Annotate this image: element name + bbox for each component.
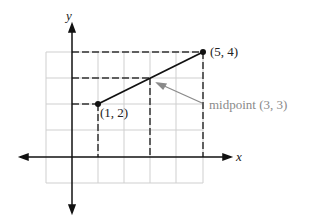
y-axis-label: y: [66, 9, 72, 22]
midpoint-arrow-icon: [157, 83, 202, 103]
point-a-label: (1, 2): [100, 106, 128, 119]
point-b-label: (5, 4): [210, 45, 238, 58]
x-axis-left-arrow-icon: [20, 154, 28, 160]
y-axis-up-arrow-icon: [69, 24, 75, 32]
x-axis-label: x: [236, 150, 242, 163]
x-axis-right-arrow-icon: [223, 154, 231, 160]
midpoint-label: midpoint (3, 3): [209, 98, 287, 111]
point-b: [200, 49, 206, 55]
y-axis-down-arrow-icon: [69, 205, 75, 213]
